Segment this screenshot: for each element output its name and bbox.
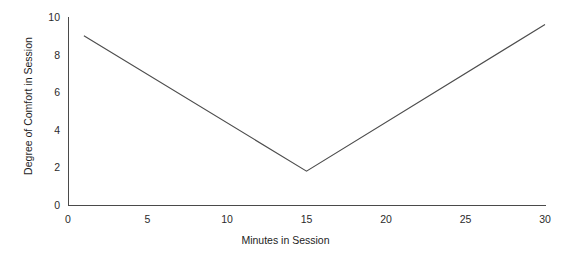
y-tick-label-4: 4 (54, 125, 60, 136)
x-tick-label-15: 15 (301, 214, 313, 225)
x-tick-label-30: 30 (539, 214, 551, 225)
y-tick-label-6: 6 (54, 87, 60, 98)
x-tick-label-0: 0 (65, 214, 71, 225)
y-tick-label-10: 10 (48, 12, 60, 23)
x-tick-label-10: 10 (221, 214, 233, 225)
comfort-line (84, 25, 545, 172)
series-plot (68, 17, 545, 205)
x-axis-spine (68, 205, 546, 206)
x-axis-title: Minutes in Session (0, 234, 571, 246)
y-axis-title: Degree of Comfort in Session (22, 12, 36, 200)
y-tick-label-0: 0 (54, 200, 60, 211)
x-tick-label-20: 20 (380, 214, 392, 225)
y-tick-label-2: 2 (54, 162, 60, 173)
plot-area (68, 17, 545, 205)
x-tick-label-5: 5 (145, 214, 151, 225)
chart-figure: Degree of Comfort in Session 0 2 4 6 8 1… (0, 0, 571, 268)
x-tick-label-25: 25 (460, 214, 472, 225)
y-tick-label-8: 8 (54, 49, 60, 60)
